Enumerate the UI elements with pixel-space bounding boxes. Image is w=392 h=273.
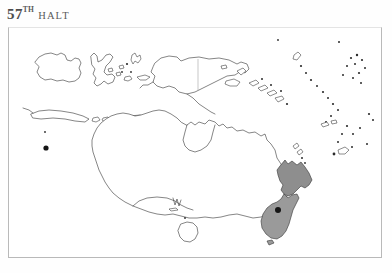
landmass-new-zealand-north-island: [277, 160, 312, 196]
island-dot-p9: [330, 115, 332, 117]
landmass-maluku-isle-3: [116, 72, 121, 76]
island-dot-tonga-5: [359, 127, 361, 129]
oceania-map: [9, 28, 382, 258]
island-dot-p4: [316, 85, 318, 87]
landmass-fiji-viti-levu: [338, 147, 349, 154]
island-dot-p3: [310, 79, 312, 81]
landmass-vanuatu-2: [297, 149, 303, 155]
island-dot-p18: [352, 77, 354, 79]
island-dot-maluku-a: [126, 63, 128, 65]
landmass-halmahera: [131, 53, 141, 64]
island-dot-p6: [327, 97, 329, 99]
island-dot-tonga-4: [352, 133, 354, 135]
island-dot-vanuatu-b: [304, 162, 306, 164]
island-dot-p7: [332, 103, 334, 105]
island-dot-p20: [342, 74, 344, 76]
island-dot-northwest: [44, 131, 46, 133]
island-dot-fiji-b: [351, 146, 353, 148]
island-dot-vanuatu-a: [301, 157, 303, 159]
marker-west-coast: [43, 145, 48, 150]
landmass-maluku-isle-2: [108, 68, 113, 72]
landmass-australia: [92, 110, 289, 218]
landmass-bali: [92, 117, 100, 122]
landmass-solomon-4: [275, 96, 284, 102]
island-dot-fiji-a: [333, 153, 336, 156]
island-dot-p22: [277, 39, 279, 41]
landmass-seram: [137, 75, 150, 80]
landmass-new-britain: [225, 79, 240, 86]
island-dot-bass-strait: [184, 217, 186, 219]
landmass-new-zealand-stewart-island: [267, 240, 274, 245]
island-dot-solomon-a: [261, 78, 263, 80]
island-dot-p2: [305, 72, 307, 74]
island-dot-solomon-c: [280, 90, 282, 92]
marker-new-zealand: [275, 207, 281, 213]
landmass-pacific-isle-north: [293, 52, 301, 60]
island-dot-p17: [358, 72, 360, 74]
island-dot-tonga-6: [368, 113, 370, 115]
landmass-vanuatu-1: [293, 143, 299, 149]
landmass-sumatra-tip: [23, 108, 33, 113]
landmass-png-peninsula: [187, 94, 215, 114]
landmass-borneo: [35, 53, 81, 82]
halt-ordinal-suffix: TH: [23, 5, 34, 14]
halt-word: HALT: [38, 10, 69, 21]
island-dot-tonga-2: [341, 133, 343, 135]
landmass-solomon-2: [258, 85, 268, 91]
landmass-java: [31, 110, 89, 122]
landmass-new-guinea: [151, 56, 249, 94]
island-dot-tonga-1: [346, 125, 348, 127]
island-dot-tonga-8: [366, 143, 368, 145]
landmass-samoa-2: [331, 120, 337, 124]
island-dot-solomon-b: [270, 84, 272, 86]
map-frame: [8, 27, 382, 258]
landmass-manus: [221, 65, 227, 69]
landmass-maluku-isle-1: [119, 65, 124, 69]
island-dot-p1: [300, 65, 302, 67]
island-dot-p16: [364, 67, 366, 69]
landmass-png-birdtail: [140, 82, 153, 88]
island-dot-p15: [346, 65, 348, 67]
island-dot-p11: [350, 57, 352, 59]
halt-number: 57: [7, 6, 23, 22]
landmass-solomon-1: [249, 80, 259, 86]
landmass-samoa-1: [321, 122, 329, 127]
island-dot-p21: [338, 41, 340, 43]
landmass-solomon-3: [267, 90, 277, 96]
island-dot-p14: [354, 63, 356, 65]
island-dot-tonga-3: [337, 141, 339, 143]
island-dot-p13: [361, 59, 363, 61]
island-dot-tonga-7: [372, 119, 374, 121]
landmass-tasmania: [178, 222, 198, 242]
island-dot-p8: [337, 109, 339, 111]
island-dot-maluku-b: [121, 71, 123, 73]
page-title: 57THHALT: [7, 6, 70, 22]
island-dot-p19: [360, 82, 362, 84]
island-dot-p12: [356, 54, 358, 56]
document-page: 57THHALT: [0, 0, 392, 273]
landmass-buru: [124, 76, 132, 81]
island-dot-maluku-c: [130, 71, 132, 73]
island-dot-p5: [322, 91, 324, 93]
island-dot-solomon-d: [286, 103, 288, 105]
